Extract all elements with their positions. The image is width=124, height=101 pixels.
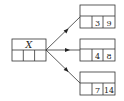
source-node-label: X <box>25 39 34 50</box>
node-1-cell-2: 3 <box>95 19 100 28</box>
node-2-cell-3: 8 <box>106 52 111 61</box>
node-1-cell-3: 9 <box>106 19 111 28</box>
node-3-cell-3: 14 <box>104 86 114 95</box>
diagram-canvas: X 3 9 4 8 7 14 <box>0 0 124 101</box>
arrowhead-icon <box>65 48 70 52</box>
node-3-cell-2: 7 <box>95 86 100 95</box>
edge-to-node-3 <box>46 50 80 83</box>
node-2-cell-2: 4 <box>95 52 100 61</box>
edge-to-node-1 <box>46 17 80 50</box>
